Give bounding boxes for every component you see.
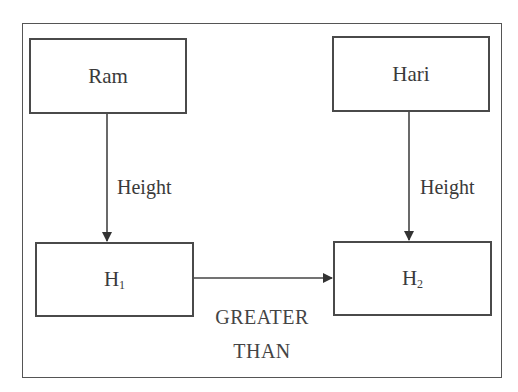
node-ram: Ram	[29, 38, 187, 114]
edge-label-hari-height: Height	[420, 176, 474, 199]
edge-label-than: THAN	[192, 340, 332, 363]
node-hari: Hari	[332, 36, 490, 112]
edge-label-ram-height: Height	[117, 176, 171, 199]
node-hari-label: Hari	[392, 62, 429, 87]
node-ram-label: Ram	[88, 64, 128, 89]
node-h2-label: H2	[402, 266, 423, 292]
node-h2: H2	[333, 241, 492, 316]
node-h1-label: H1	[104, 267, 125, 293]
node-h1: H1	[35, 242, 194, 317]
edge-label-greater: GREATER	[192, 306, 332, 329]
